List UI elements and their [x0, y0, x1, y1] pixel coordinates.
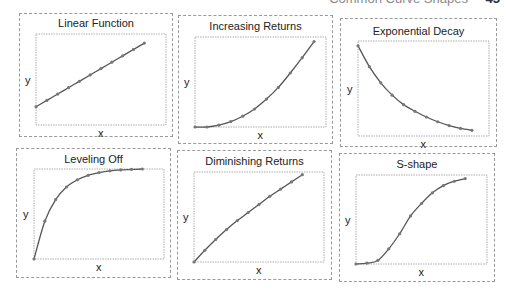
data-point-marker	[236, 219, 239, 222]
data-point-marker	[365, 262, 368, 265]
x-axis-label: x	[421, 138, 427, 150]
y-axis-label: y	[184, 76, 190, 88]
data-point-marker	[368, 65, 371, 68]
data-point-marker	[290, 180, 293, 183]
data-point-marker	[132, 48, 135, 51]
data-point-marker	[453, 180, 456, 183]
data-point-marker	[464, 177, 467, 180]
data-point-marker	[119, 168, 122, 171]
data-point-marker	[376, 259, 379, 262]
data-point-marker	[379, 81, 382, 84]
data-point-marker	[141, 167, 144, 170]
data-point-marker	[265, 98, 268, 101]
data-point-marker	[32, 257, 35, 260]
data-point-marker	[34, 105, 37, 108]
data-point-marker	[470, 129, 473, 132]
data-point-marker	[225, 228, 228, 231]
data-point-marker	[130, 168, 133, 171]
plot-area	[341, 19, 496, 146]
data-point-marker	[398, 232, 401, 235]
data-point-marker	[76, 178, 79, 181]
plot-frame	[358, 41, 489, 136]
data-point-marker	[289, 71, 292, 74]
data-point-marker	[247, 211, 250, 214]
data-point-marker	[431, 191, 434, 194]
page-header: Common Curve Shapes 43	[329, 0, 500, 6]
data-point-marker	[121, 54, 124, 57]
data-line	[195, 42, 314, 128]
data-point-marker	[356, 44, 359, 47]
data-point-marker	[192, 260, 195, 263]
data-line	[34, 169, 142, 259]
data-point-marker	[420, 202, 423, 205]
data-point-marker	[45, 99, 48, 102]
plot-frame	[356, 175, 487, 264]
chart-panel-exponential-decay: Exponential Decay yx	[340, 18, 497, 147]
data-point-marker	[110, 61, 113, 64]
data-point-marker	[143, 42, 146, 45]
data-point-marker	[99, 67, 102, 70]
data-point-marker	[409, 214, 412, 217]
data-point-marker	[312, 40, 315, 43]
x-axis-label: x	[96, 261, 102, 273]
data-point-marker	[354, 262, 357, 265]
data-point-marker	[253, 107, 256, 110]
data-point-marker	[277, 86, 280, 89]
data-point-marker	[65, 185, 68, 188]
data-point-marker	[459, 127, 462, 130]
chart-panel-diminishing-returns: Diminishing Returns yx	[177, 150, 332, 280]
data-line	[356, 179, 465, 264]
data-point-marker	[402, 103, 405, 106]
y-axis-label: y	[183, 211, 189, 223]
data-point-marker	[43, 220, 46, 223]
plot-frame	[195, 37, 326, 127]
plot-area	[178, 151, 331, 279]
data-point-marker	[257, 203, 260, 206]
data-point-marker	[425, 115, 428, 118]
plot-frame	[34, 169, 164, 259]
data-point-marker	[387, 247, 390, 250]
data-point-marker	[442, 184, 445, 187]
x-axis-label: x	[258, 129, 264, 141]
chart-panel-linear-function: Linear Function yx	[19, 13, 173, 137]
plot-area	[340, 154, 494, 281]
chart-panel-increasing-returns: Increasing Returns yx	[178, 15, 333, 144]
data-point-marker	[89, 73, 92, 76]
data-point-marker	[268, 195, 271, 198]
y-axis-label: y	[345, 214, 351, 226]
data-point-marker	[203, 249, 206, 252]
running-header: Common Curve Shapes	[329, 0, 468, 6]
x-axis-label: x	[419, 266, 425, 278]
data-point-marker	[108, 169, 111, 172]
data-line	[194, 175, 302, 262]
data-point-marker	[301, 173, 304, 176]
chart-panel-leveling-off: Leveling Off yx	[16, 148, 171, 278]
page-number: 43	[486, 0, 500, 6]
data-point-marker	[56, 92, 59, 95]
data-point-marker	[97, 171, 100, 174]
data-point-marker	[279, 188, 282, 191]
y-axis-label: y	[23, 208, 29, 220]
data-line	[358, 46, 472, 131]
y-axis-label: y	[347, 83, 353, 95]
x-axis-label: x	[98, 127, 104, 139]
data-point-marker	[78, 80, 81, 83]
data-point-marker	[229, 120, 232, 123]
data-point-marker	[87, 174, 90, 177]
chart-panel-s-shape: S-shape yx	[339, 153, 495, 282]
plot-frame	[36, 34, 166, 125]
data-point-marker	[436, 120, 439, 123]
data-point-marker	[205, 125, 208, 128]
data-point-marker	[214, 238, 217, 241]
data-point-marker	[448, 124, 451, 127]
plot-area	[17, 149, 170, 277]
data-point-marker	[301, 56, 304, 59]
plot-frame	[194, 172, 324, 262]
y-axis-label: y	[25, 74, 31, 86]
plot-area	[20, 14, 172, 136]
data-point-marker	[241, 115, 244, 118]
plot-area	[179, 16, 332, 143]
data-point-marker	[67, 86, 70, 89]
data-point-marker	[193, 125, 196, 128]
data-point-marker	[54, 198, 57, 201]
